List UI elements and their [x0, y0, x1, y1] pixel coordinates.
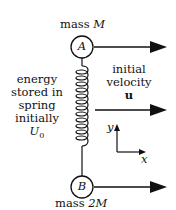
mass-top-var: M — [93, 17, 105, 31]
mass-bottom-text: mass — [55, 196, 85, 210]
circle-b-label: B — [76, 180, 88, 193]
energy-var: U0 — [2, 125, 72, 142]
arrowhead-a — [150, 41, 167, 53]
circle-a-label: A — [76, 40, 88, 53]
mass-top-text: mass — [60, 17, 90, 31]
velocity-label: initial velocity u — [100, 63, 158, 102]
arrowhead-velocity — [150, 104, 167, 116]
spring — [76, 58, 88, 176]
mass-bottom-label: mass 2M — [55, 197, 107, 210]
axis-x-label: x — [141, 153, 148, 166]
velocity-var: u — [100, 89, 158, 102]
mass-top-label: mass M — [60, 18, 105, 31]
coordinate-axes — [117, 129, 141, 152]
y-axis-arrowhead — [114, 124, 120, 131]
axis-y-label: y — [107, 121, 114, 134]
energy-var-symbol: U — [30, 124, 40, 138]
arrowhead-b — [150, 181, 167, 193]
energy-label: energy stored in spring initially U0 — [2, 73, 72, 142]
mass-bottom-var: 2M — [88, 196, 107, 210]
energy-var-sub: 0 — [39, 131, 44, 140]
